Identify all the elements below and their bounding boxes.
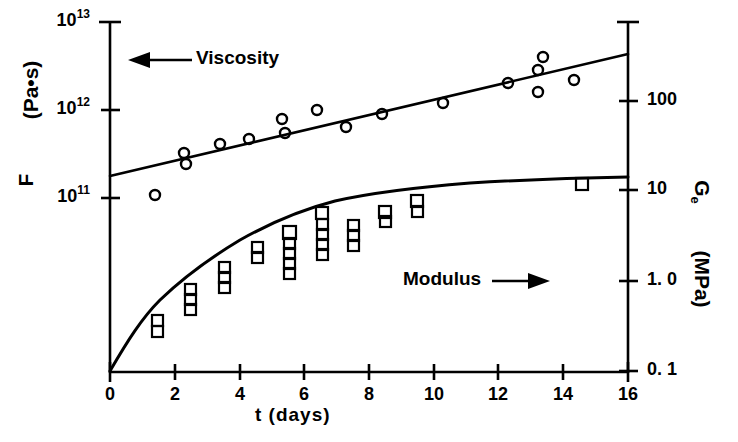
y-right-axis-units: (MPa)	[690, 234, 714, 324]
x-tick-16: 16	[608, 384, 648, 405]
data-point	[533, 65, 543, 75]
modulus-fit-curve	[110, 177, 628, 371]
figure-canvas: 1013 1012 1011 100 10 1. 0 0. 1 0 2 4 6 …	[0, 0, 738, 442]
viscosity-data-points	[150, 52, 579, 200]
data-point	[312, 105, 322, 115]
y-right-tick-1: 1. 0	[647, 269, 677, 290]
data-point	[533, 87, 543, 97]
x-tick-8: 8	[349, 384, 389, 405]
viscosity-series-label: Viscosity	[196, 47, 279, 69]
modulus-series-label: Modulus	[403, 268, 481, 290]
modulus-data-points	[152, 178, 588, 337]
modulus-arrow-icon	[492, 273, 550, 289]
data-point	[576, 178, 588, 190]
y-right-tick-10: 10	[647, 178, 667, 199]
y-left-axis-symbol: F	[14, 150, 38, 210]
y-right-tick-100: 100	[647, 89, 677, 110]
right-axis	[617, 21, 639, 373]
x-tick-4: 4	[220, 384, 260, 405]
data-point	[152, 315, 163, 326]
x-tick-10: 10	[414, 384, 454, 405]
data-point	[179, 148, 189, 158]
data-point	[316, 207, 328, 219]
data-point	[181, 159, 191, 169]
x-tick-2: 2	[155, 384, 195, 405]
y-right-tick-0-1: 0. 1	[647, 359, 677, 380]
data-point	[150, 190, 160, 200]
data-point	[341, 122, 351, 132]
x-tick-0: 0	[90, 384, 130, 405]
data-point	[538, 52, 548, 62]
plot-area	[0, 0, 738, 442]
data-point	[215, 139, 225, 149]
x-tick-6: 6	[284, 384, 324, 405]
y-left-axis-units: (Pa•s)	[19, 45, 43, 135]
x-tick-12: 12	[478, 384, 518, 405]
x-axis	[110, 362, 628, 382]
x-tick-14: 14	[543, 384, 583, 405]
data-point	[569, 75, 579, 85]
data-point	[152, 326, 163, 337]
data-point	[438, 98, 448, 108]
x-axis-title: t (days)	[255, 404, 331, 426]
viscosity-arrow-icon	[128, 52, 192, 68]
data-point	[277, 114, 287, 124]
left-axis	[99, 21, 121, 373]
y-left-tick-1e13: 1013	[12, 10, 90, 31]
y-right-axis-symbol: Ge	[690, 162, 714, 222]
